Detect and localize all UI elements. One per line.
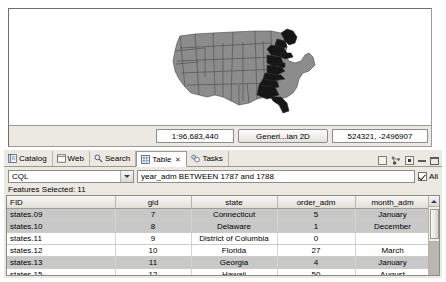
cell-order-adm: 50	[277, 269, 355, 276]
square-icon[interactable]	[378, 156, 387, 165]
us-states-map	[9, 9, 431, 125]
cell-month-adm: January	[355, 257, 428, 269]
cell-gid: 9	[115, 233, 191, 245]
cell-state: Hawaii	[191, 269, 277, 276]
filter-language-select[interactable]: CQL	[8, 170, 134, 183]
maximize-icon[interactable]	[430, 157, 439, 165]
cell-gid: 7	[115, 209, 191, 221]
application-window: 1:96,683,440 Generi...ian 2D 524321, -24…	[0, 0, 446, 282]
scroll-up-button[interactable]	[429, 196, 439, 207]
cell-fid: states.12	[7, 245, 115, 257]
scale-indicator[interactable]: 1:96,683,440	[156, 129, 234, 143]
cell-order-adm: 4	[277, 257, 355, 269]
column-header-state[interactable]: state	[191, 196, 277, 209]
cell-order-adm: 27	[277, 245, 355, 257]
tab-catalog-label: Catalog	[19, 154, 47, 163]
cell-month-adm	[355, 233, 428, 245]
select-all-label: All	[429, 172, 438, 181]
cell-fid: states.10	[7, 221, 115, 233]
cell-gid: 11	[115, 257, 191, 269]
attribute-grid: FID gid state order_adm month_adm states…	[7, 196, 428, 275]
tab-close-icon[interactable]: ✕	[175, 156, 181, 163]
cell-state: Delaware	[191, 221, 277, 233]
cell-fid: states.15	[7, 269, 115, 276]
table-row[interactable]: states.09 7 Connecticut 5 January	[7, 209, 428, 221]
tab-search[interactable]: Search	[90, 151, 136, 166]
filter-expression-input[interactable]: year_adm BETWEEN 1787 and 1788	[137, 170, 415, 183]
map-view-panel[interactable]	[8, 8, 432, 126]
chevron-down-icon[interactable]	[120, 171, 133, 182]
tab-catalog[interactable]: Catalog	[4, 151, 53, 166]
cell-order-adm: 1	[277, 221, 355, 233]
minimize-icon[interactable]	[418, 158, 426, 162]
cell-fid: states.13	[7, 257, 115, 269]
cell-state: Georgia	[191, 257, 277, 269]
cell-month-adm: December	[355, 221, 428, 233]
filter-bar: CQL year_adm BETWEEN 1787 and 1788 All	[4, 169, 442, 184]
cell-order-adm: 5	[277, 209, 355, 221]
catalog-icon	[8, 154, 17, 163]
tab-tasks-label: Tasks	[202, 154, 222, 163]
cell-order-adm: 0	[277, 233, 355, 245]
crs-button[interactable]: Generi...ian 2D	[238, 129, 328, 143]
cell-fid: states.09	[7, 209, 115, 221]
web-icon	[57, 154, 66, 163]
cell-gid: 8	[115, 221, 191, 233]
table-scroll-port: FID gid state order_adm month_adm states…	[7, 196, 428, 275]
scrollbar-thumb[interactable]	[430, 209, 439, 239]
cell-state: Florida	[191, 245, 277, 257]
tab-table-label: Table	[152, 155, 171, 164]
scrollbar-track[interactable]	[429, 241, 439, 275]
tasks-icon	[191, 154, 200, 163]
tab-web-label: Web	[68, 154, 84, 163]
coordinate-readout: 524321, -2496907	[332, 129, 428, 143]
attribute-table[interactable]: FID gid state order_adm month_adm states…	[6, 195, 440, 276]
cell-state: Connecticut	[191, 209, 277, 221]
checkbox-icon[interactable]	[418, 172, 427, 181]
table-row[interactable]: states.10 8 Delaware 1 December	[7, 221, 428, 233]
search-icon	[94, 154, 103, 163]
features-selected-label: Features Selected: 11	[8, 185, 86, 194]
table-icon	[141, 155, 150, 164]
column-header-gid[interactable]: gid	[115, 196, 191, 209]
column-header-month-adm[interactable]: month_adm	[355, 196, 428, 209]
filter-language-value: CQL	[9, 172, 120, 181]
table-header-row: FID gid state order_adm month_adm	[7, 196, 428, 209]
view-tab-bar: Catalog Web Search	[4, 150, 442, 167]
view-toolbar	[378, 156, 442, 166]
table-row[interactable]: states.13 11 Georgia 4 January	[7, 257, 428, 269]
column-header-order-adm[interactable]: order_adm	[277, 196, 355, 209]
cell-fid: states.11	[7, 233, 115, 245]
tab-web[interactable]: Web	[53, 151, 90, 166]
table-vertical-scrollbar[interactable]	[428, 196, 439, 275]
cell-month-adm: January	[355, 209, 428, 221]
cell-month-adm: March	[355, 245, 428, 257]
select-all-checkbox[interactable]: All	[418, 172, 438, 181]
table-view: CQL year_adm BETWEEN 1787 and 1788 All F…	[4, 167, 442, 278]
cell-gid: 10	[115, 245, 191, 257]
map-canvas[interactable]	[9, 9, 431, 125]
link-nodes-icon[interactable]	[391, 156, 401, 165]
cell-state: District of Columbia	[191, 233, 277, 245]
tab-search-label: Search	[105, 154, 130, 163]
table-row[interactable]: states.11 9 District of Columbia 0	[7, 233, 428, 245]
map-status-bar: 1:96,683,440 Generi...ian 2D 524321, -24…	[8, 126, 432, 147]
cell-gid: 12	[115, 269, 191, 276]
tab-tasks[interactable]: Tasks	[187, 151, 228, 166]
column-header-fid[interactable]: FID	[7, 196, 115, 209]
tab-table[interactable]: Table ✕	[136, 151, 187, 167]
table-row[interactable]: states.12 10 Florida 27 March	[7, 245, 428, 257]
cell-month-adm: August	[355, 269, 428, 276]
boxed-caret-icon[interactable]	[405, 156, 414, 165]
table-row[interactable]: states.15 12 Hawaii 50 August	[7, 269, 428, 276]
